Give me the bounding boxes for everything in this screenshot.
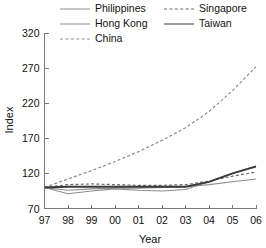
chart-figure: Philippines Hong Kong China Singapore Ta… bbox=[0, 0, 266, 248]
y-tick-label: 220 bbox=[22, 97, 40, 109]
x-axis-title: Year bbox=[139, 233, 162, 245]
y-tick-label: 120 bbox=[22, 167, 40, 179]
series-line-china bbox=[45, 67, 257, 188]
x-tick-label: 97 bbox=[39, 214, 51, 226]
x-axis: 97989900010203040506 bbox=[39, 205, 262, 226]
x-tick-label: 04 bbox=[203, 214, 215, 226]
x-tick-label: 98 bbox=[62, 214, 74, 226]
y-tick-label: 320 bbox=[22, 27, 40, 39]
x-tick-label: 03 bbox=[180, 214, 192, 226]
y-tick-label: 170 bbox=[22, 132, 40, 144]
x-tick-label: 99 bbox=[86, 214, 98, 226]
series-line-singapore bbox=[45, 172, 257, 187]
x-tick-label: 05 bbox=[227, 214, 239, 226]
y-tick-label: 270 bbox=[22, 62, 40, 74]
chart-svg: 70120170220270320 97989900010203040506 Y… bbox=[0, 0, 266, 248]
y-axis: 70120170220270320 bbox=[22, 27, 49, 215]
x-tick-label: 06 bbox=[250, 214, 262, 226]
series-group bbox=[45, 67, 257, 194]
chart-plot-area: 70120170220270320 97989900010203040506 Y… bbox=[0, 0, 266, 248]
y-axis-title: Index bbox=[3, 106, 15, 133]
x-tick-group: 97989900010203040506 bbox=[39, 205, 262, 226]
x-tick-label: 02 bbox=[156, 214, 168, 226]
x-tick-label: 01 bbox=[133, 214, 145, 226]
x-tick-label: 00 bbox=[109, 214, 121, 226]
